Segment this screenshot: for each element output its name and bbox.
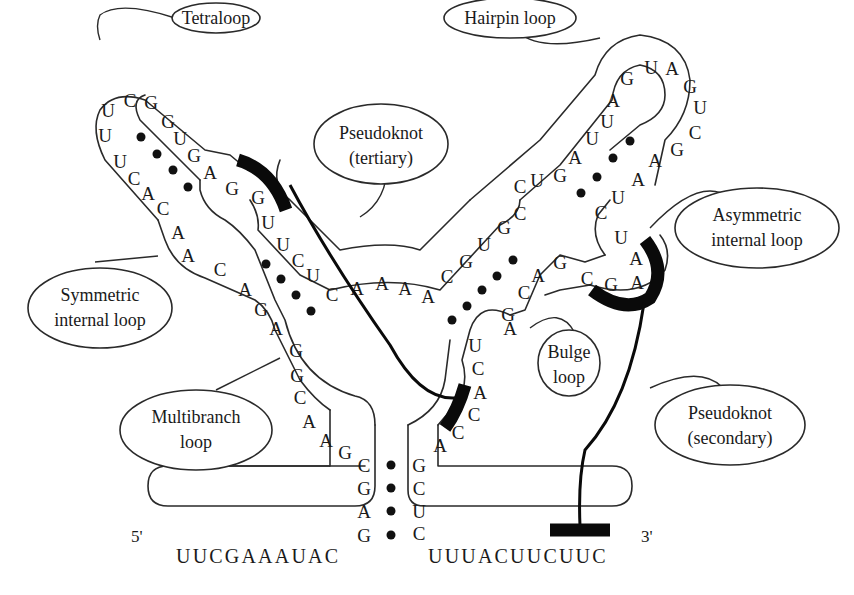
svg-text:G: G <box>338 442 352 463</box>
label-pseudoknot-tertiary: Pseudoknot (tertiary) <box>314 104 448 217</box>
svg-text:U: U <box>614 227 628 248</box>
three-prime-tail: UUUACUUCUUC <box>428 545 608 567</box>
svg-text:C: C <box>514 176 527 197</box>
svg-text:C: C <box>441 266 454 287</box>
svg-text:U: U <box>412 501 426 522</box>
label-tetraloop: Tetraloop <box>98 3 261 40</box>
svg-text:U: U <box>600 111 614 132</box>
svg-text:C: C <box>128 168 141 189</box>
svg-text:C: C <box>326 284 339 305</box>
svg-text:C: C <box>514 203 527 224</box>
label-symmetric-internal-loop: Symmetric internal loop <box>28 256 172 348</box>
svg-text:U: U <box>693 97 707 118</box>
svg-text:Hairpin loop: Hairpin loop <box>464 8 556 28</box>
svg-text:A: A <box>269 318 283 339</box>
svg-text:Bulge: Bulge <box>548 342 591 362</box>
svg-text:C: C <box>468 404 481 425</box>
svg-text:U: U <box>98 125 112 146</box>
svg-text:loop: loop <box>180 432 212 452</box>
svg-text:A: A <box>357 501 371 522</box>
svg-text:C: C <box>518 282 531 303</box>
svg-text:G: G <box>290 365 304 386</box>
svg-text:A: A <box>203 162 217 183</box>
svg-text:C: C <box>358 455 371 476</box>
svg-text:G: G <box>620 68 634 89</box>
svg-text:U: U <box>173 128 187 149</box>
svg-text:A: A <box>473 382 487 403</box>
svg-text:internal loop: internal loop <box>711 230 802 250</box>
svg-text:C: C <box>292 250 305 271</box>
three-prime-label: 3' <box>641 527 653 546</box>
svg-text:G: G <box>604 274 618 295</box>
svg-text:C: C <box>472 358 485 379</box>
rna-structure-diagram: U U U C A C A A C A G A G C G G U G A G … <box>0 0 854 595</box>
svg-text:C: C <box>413 478 426 499</box>
svg-text:U: U <box>276 234 290 255</box>
svg-text:A: A <box>606 90 620 111</box>
svg-text:C: C <box>595 202 608 223</box>
svg-text:C: C <box>689 122 702 143</box>
label-asymmetric-internal-loop: Asymmetric internal loop <box>650 188 839 268</box>
svg-text:A: A <box>433 435 447 456</box>
svg-text:A: A <box>141 183 155 204</box>
svg-text:G: G <box>144 92 158 113</box>
label-bulge-loop: Bulge loop <box>530 318 600 396</box>
svg-text:C: C <box>157 198 170 219</box>
svg-text:A: A <box>375 273 389 294</box>
svg-text:G: G <box>357 525 371 546</box>
svg-text:Pseudoknot: Pseudoknot <box>688 403 772 423</box>
svg-text:U: U <box>261 212 275 233</box>
svg-text:G: G <box>412 455 426 476</box>
svg-text:G: G <box>251 187 265 208</box>
svg-text:(tertiary): (tertiary) <box>349 148 413 169</box>
svg-text:G: G <box>459 251 473 272</box>
svg-text:C: C <box>581 268 594 289</box>
svg-text:U: U <box>113 151 127 172</box>
svg-text:A: A <box>421 286 435 307</box>
svg-text:A: A <box>630 272 644 293</box>
svg-text:G: G <box>254 299 268 320</box>
svg-text:A: A <box>631 169 645 190</box>
svg-text:A: A <box>302 411 316 432</box>
svg-text:U: U <box>101 100 115 121</box>
svg-text:U: U <box>644 57 658 78</box>
svg-text:A: A <box>629 248 643 269</box>
label-pseudoknot-secondary: Pseudoknot (secondary) <box>650 376 805 465</box>
svg-text:U: U <box>306 265 320 286</box>
svg-text:U: U <box>611 187 625 208</box>
svg-text:A: A <box>171 222 185 243</box>
svg-text:Symmetric: Symmetric <box>61 285 140 305</box>
svg-text:U: U <box>530 170 544 191</box>
label-hairpin-loop: Hairpin loop <box>444 0 600 44</box>
svg-text:A: A <box>648 150 662 171</box>
svg-text:C: C <box>214 259 227 280</box>
five-prime-tail: UUCGAAAUAC <box>176 545 340 567</box>
svg-text:A: A <box>181 245 195 266</box>
svg-text:A: A <box>398 278 412 299</box>
svg-text:C: C <box>124 90 137 111</box>
svg-text:G: G <box>187 145 201 166</box>
svg-text:A: A <box>531 265 545 286</box>
svg-text:A: A <box>319 430 333 451</box>
svg-text:G: G <box>553 165 567 186</box>
svg-text:(secondary): (secondary) <box>688 428 773 449</box>
svg-text:G: G <box>497 217 511 238</box>
svg-text:U: U <box>585 128 599 149</box>
svg-text:A: A <box>568 147 582 168</box>
svg-text:Multibranch: Multibranch <box>152 407 241 427</box>
svg-text:C: C <box>413 523 426 544</box>
svg-text:U: U <box>468 335 482 356</box>
svg-text:G: G <box>683 76 697 97</box>
svg-text:A: A <box>665 58 679 79</box>
svg-text:Asymmetric: Asymmetric <box>713 205 802 225</box>
svg-text:Pseudoknot: Pseudoknot <box>339 123 423 143</box>
svg-text:loop: loop <box>553 367 585 387</box>
svg-text:A: A <box>238 279 252 300</box>
svg-text:G: G <box>357 478 371 499</box>
svg-text:U: U <box>477 234 491 255</box>
svg-text:Tetraloop: Tetraloop <box>182 8 251 28</box>
svg-text:G: G <box>670 139 684 160</box>
svg-text:G: G <box>553 252 567 273</box>
five-prime-label: 5' <box>131 527 143 546</box>
svg-text:G: G <box>225 178 239 199</box>
